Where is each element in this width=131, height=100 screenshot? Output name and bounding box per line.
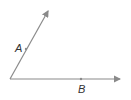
point-b — [80, 78, 82, 80]
label-a: A — [15, 43, 22, 54]
point-a — [25, 48, 27, 50]
label-b: B — [78, 84, 85, 95]
